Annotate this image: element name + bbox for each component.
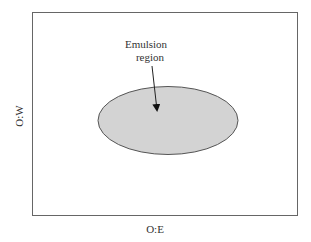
annotation-line2: region [136, 51, 165, 63]
x-axis-label: O:E [146, 223, 164, 235]
annotation-line1: Emulsion [125, 38, 168, 50]
y-axis-label: O:W [13, 105, 25, 127]
emulsion-diagram: Emulsion region O:E O:W [0, 0, 311, 242]
emulsion-region [98, 87, 238, 155]
